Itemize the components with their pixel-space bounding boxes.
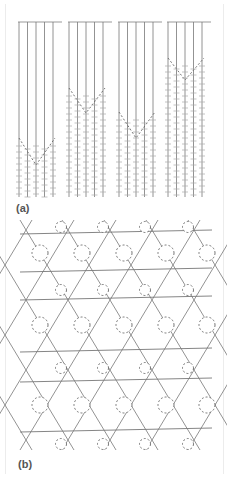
node-circle-small bbox=[98, 363, 109, 374]
node-circle-small bbox=[183, 285, 194, 296]
node-circle-large bbox=[74, 397, 90, 413]
diagonal-line bbox=[0, 220, 116, 450]
panel-b-label: (b) bbox=[18, 458, 32, 470]
node-circle-small bbox=[140, 222, 151, 233]
node-circle-large bbox=[199, 245, 215, 261]
node-circle-small bbox=[56, 363, 67, 374]
node-circle-small bbox=[56, 439, 67, 450]
node-circle-large bbox=[158, 397, 174, 413]
v-boundary bbox=[168, 58, 204, 80]
node-circle-small bbox=[140, 439, 151, 450]
v-boundary bbox=[69, 88, 105, 113]
node-circle-large bbox=[116, 245, 132, 261]
node-circle-large bbox=[158, 245, 174, 261]
node-circle-small bbox=[98, 285, 109, 296]
node-circle-small bbox=[56, 222, 67, 233]
diagonal-line bbox=[0, 220, 116, 450]
panel-b-diagram bbox=[0, 220, 227, 460]
node-circle-small bbox=[140, 363, 151, 374]
node-circle-large bbox=[199, 317, 215, 333]
node-circle-small bbox=[183, 222, 194, 233]
node-circle-small bbox=[56, 285, 67, 296]
v-boundary bbox=[119, 112, 155, 138]
node-circle-large bbox=[32, 397, 48, 413]
node-circle-large bbox=[116, 397, 132, 413]
node-circle-large bbox=[32, 245, 48, 261]
node-circle-small bbox=[140, 285, 151, 296]
node-circle-large bbox=[32, 317, 48, 333]
node-circle-small bbox=[183, 363, 194, 374]
node-circle-small bbox=[183, 439, 194, 450]
horizontal-line bbox=[20, 296, 212, 300]
node-circle-large bbox=[158, 317, 174, 333]
node-circle-small bbox=[98, 439, 109, 450]
node-circle-large bbox=[199, 397, 215, 413]
v-boundary bbox=[19, 138, 55, 165]
node-circle-large bbox=[74, 245, 90, 261]
node-circle-large bbox=[74, 317, 90, 333]
node-circle-small bbox=[98, 222, 109, 233]
panel-a-diagram bbox=[0, 0, 227, 200]
horizontal-line bbox=[20, 230, 212, 234]
node-circle-large bbox=[116, 317, 132, 333]
panel-a-label: (a) bbox=[16, 202, 29, 214]
